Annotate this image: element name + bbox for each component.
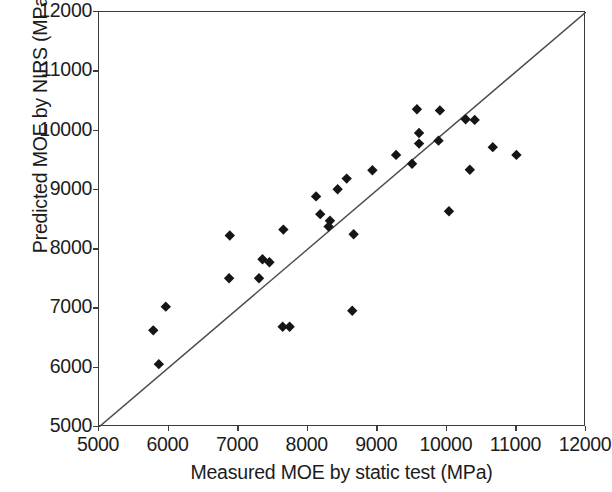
data-point	[311, 191, 321, 201]
data-point	[412, 104, 422, 114]
x-tick-mark	[515, 426, 516, 431]
data-point	[347, 306, 357, 316]
y-tick-mark	[93, 367, 98, 368]
y-tick-mark	[93, 70, 98, 71]
data-point	[414, 138, 424, 148]
x-axis-title: Measured MOE by static test (MPa)	[98, 461, 585, 484]
data-point	[348, 229, 358, 239]
data-point-group	[148, 104, 522, 369]
x-tick-mark	[98, 426, 99, 431]
y-tick-mark	[93, 11, 98, 12]
data-point	[154, 359, 164, 369]
scatter-plot-figure: Predicted MOE by NIRS (MPa) 500060007000…	[0, 0, 612, 492]
x-tick-mark	[446, 426, 447, 431]
y-tick-mark	[93, 248, 98, 249]
data-point	[332, 184, 342, 194]
data-point	[284, 322, 294, 332]
data-point	[367, 165, 377, 175]
identity-line	[99, 12, 586, 427]
y-tick-mark	[93, 307, 98, 308]
data-point	[315, 209, 325, 219]
data-point	[460, 114, 470, 124]
data-point	[488, 142, 498, 152]
data-point	[225, 230, 235, 240]
data-point	[469, 115, 479, 125]
data-point	[341, 173, 351, 183]
data-point	[465, 165, 475, 175]
data-point	[433, 135, 443, 145]
data-point	[161, 301, 171, 311]
x-tick-mark	[168, 426, 169, 431]
plot-canvas	[99, 12, 586, 427]
data-point	[254, 273, 264, 283]
data-point	[511, 150, 521, 160]
x-tick-mark	[376, 426, 377, 431]
data-point	[224, 273, 234, 283]
x-tick-mark	[585, 426, 586, 431]
data-point	[435, 105, 445, 115]
data-point	[444, 206, 454, 216]
data-point	[391, 150, 401, 160]
data-point	[407, 159, 417, 169]
data-point	[414, 128, 424, 138]
data-point	[148, 325, 158, 335]
x-tick-label: 12000	[540, 435, 612, 455]
y-tick-mark	[93, 130, 98, 131]
x-tick-mark	[307, 426, 308, 431]
data-point	[278, 224, 288, 234]
y-tick-mark	[93, 189, 98, 190]
x-tick-mark	[237, 426, 238, 431]
plot-area	[98, 11, 585, 426]
